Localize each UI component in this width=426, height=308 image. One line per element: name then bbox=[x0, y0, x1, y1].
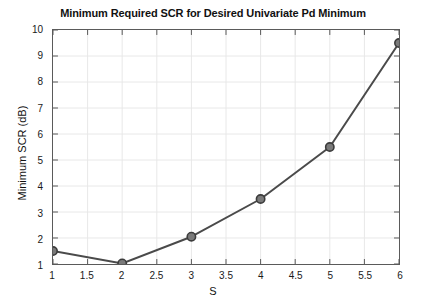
chart-title: Minimum Required SCR for Desired Univari… bbox=[0, 7, 426, 19]
x-tick-label: 6 bbox=[397, 270, 403, 281]
data-point-marker bbox=[395, 39, 399, 47]
y-tick-label: 10 bbox=[0, 24, 43, 35]
data-point-marker bbox=[53, 247, 57, 255]
x-axis-label: S bbox=[0, 285, 426, 297]
y-tick-label: 8 bbox=[0, 76, 43, 87]
x-tick-label: 5.5 bbox=[358, 270, 372, 281]
x-tick-label: 4 bbox=[258, 270, 264, 281]
gridlines-vertical bbox=[88, 30, 365, 264]
x-tick-label: 1.5 bbox=[80, 270, 94, 281]
y-axis-label: Minimum SCR (dB) bbox=[16, 93, 28, 213]
x-tick-label: 3 bbox=[188, 270, 194, 281]
x-tick-label: 4.5 bbox=[289, 270, 303, 281]
y-tick-label: 9 bbox=[0, 50, 43, 61]
data-point-marker bbox=[118, 259, 126, 264]
x-tick-label: 2 bbox=[119, 270, 125, 281]
x-tick-label: 3.5 bbox=[219, 270, 233, 281]
y-tick-label: 1 bbox=[0, 260, 43, 271]
y-tick-label: 2 bbox=[0, 233, 43, 244]
chart-figure: Minimum Required SCR for Desired Univari… bbox=[0, 0, 426, 308]
x-tick-label: 2.5 bbox=[149, 270, 163, 281]
plot-area bbox=[52, 29, 400, 265]
plot-svg bbox=[53, 30, 399, 264]
x-tick-label: 5 bbox=[328, 270, 334, 281]
data-point-marker bbox=[256, 195, 264, 203]
data-point-marker bbox=[187, 233, 195, 241]
data-point-marker bbox=[326, 143, 334, 151]
x-tick-label: 1 bbox=[49, 270, 55, 281]
